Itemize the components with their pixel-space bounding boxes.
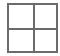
grid-horizontal-divider xyxy=(9,28,56,30)
grid-2x2-icon xyxy=(7,3,58,53)
